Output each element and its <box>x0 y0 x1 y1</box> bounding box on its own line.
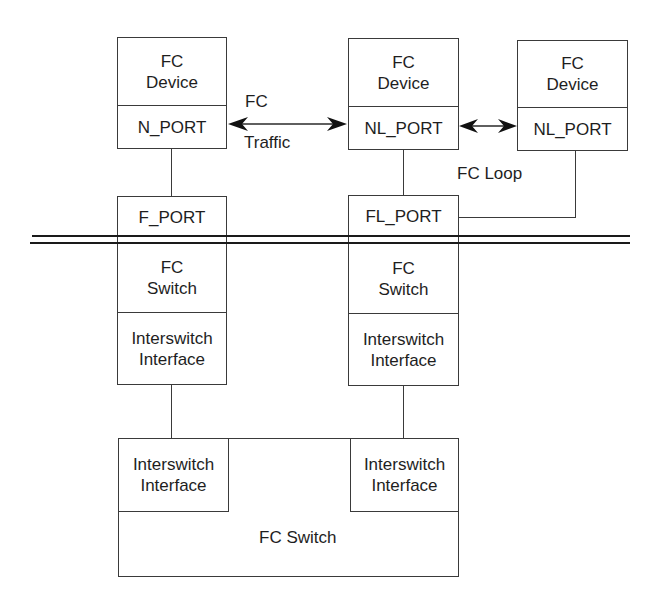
device-title: FC Device <box>518 41 627 107</box>
boundary-line-top <box>32 235 630 237</box>
n-port: N_PORT <box>118 105 226 148</box>
device-title: FC Device <box>349 39 458 106</box>
interface-line2: Interface <box>139 349 205 370</box>
switch-title: FC Switch <box>118 244 226 312</box>
interface-line1: Interswitch <box>131 328 212 349</box>
switch-title-line2: Switch <box>147 278 197 299</box>
nl-port-2: NL_PORT <box>518 107 627 150</box>
switch-title: FC Switch <box>349 244 458 313</box>
nl-port-1: NL_PORT <box>349 106 458 149</box>
device-title-line2: Device <box>146 72 198 93</box>
switch-title-line2: Switch <box>378 279 428 300</box>
bottom-switch-label: FC Switch <box>259 527 336 548</box>
fc-device-3: FC Device NL_PORT <box>517 40 628 151</box>
interface-text: Interswitch Interface <box>119 439 228 511</box>
interface-line2: Interface <box>140 475 206 496</box>
interswitch-interface: Interswitch Interface <box>349 313 458 385</box>
port-label: FL_PORT <box>365 206 441 227</box>
loop-arrow <box>459 119 517 133</box>
fc-device-2: FC Device NL_PORT <box>348 38 459 150</box>
loop-line-vertical <box>575 151 576 218</box>
fc-switch-2: FL_PORT FC Switch Interswitch Interface <box>348 195 459 386</box>
interface-line1: Interswitch <box>133 454 214 475</box>
interface-line1: Interswitch <box>363 329 444 350</box>
fc-device-1: FC Device N_PORT <box>117 37 227 149</box>
traffic-label-line1: FC <box>245 91 268 112</box>
fc-traffic-arrow <box>228 117 347 131</box>
boundary-line-bottom <box>30 242 630 244</box>
interface-line2: Interface <box>370 350 436 371</box>
device-title-line1: FC <box>561 53 584 74</box>
interswitch-interface: Interswitch Interface <box>118 312 226 384</box>
device-title: FC Device <box>118 38 226 105</box>
fc-switch-1: F_PORT FC Switch Interswitch Interface <box>117 196 227 385</box>
device-title-line1: FC <box>161 51 184 72</box>
loop-label: FC Loop <box>457 163 522 184</box>
port-label: NL_PORT <box>364 118 442 139</box>
device-title-line2: Device <box>547 74 599 95</box>
port-label: N_PORT <box>138 117 207 138</box>
bottom-interface-1: Interswitch Interface <box>118 438 229 512</box>
device-title-line1: FC <box>392 52 415 73</box>
link-nport-fport <box>171 149 172 196</box>
interface-text: Interswitch Interface <box>351 439 458 511</box>
fc-switch-bottom: Interswitch Interface Interswitch Interf… <box>118 438 459 577</box>
f-port: F_PORT <box>118 197 226 237</box>
interface-line1: Interswitch <box>364 454 445 475</box>
switch-title-line1: FC <box>161 257 184 278</box>
bottom-interface-2: Interswitch Interface <box>350 438 459 512</box>
traffic-label-line2: Traffic <box>244 132 290 153</box>
device-title-line2: Device <box>378 73 430 94</box>
port-label: F_PORT <box>139 207 206 228</box>
loop-line-horizontal <box>459 217 576 218</box>
fl-port: FL_PORT <box>349 196 458 237</box>
link-nlport-flport <box>403 150 404 195</box>
switch-title-line1: FC <box>392 258 415 279</box>
link-interface-1 <box>171 385 172 438</box>
interface-line2: Interface <box>371 475 437 496</box>
link-interface-2 <box>403 386 404 438</box>
port-label: NL_PORT <box>533 119 611 140</box>
